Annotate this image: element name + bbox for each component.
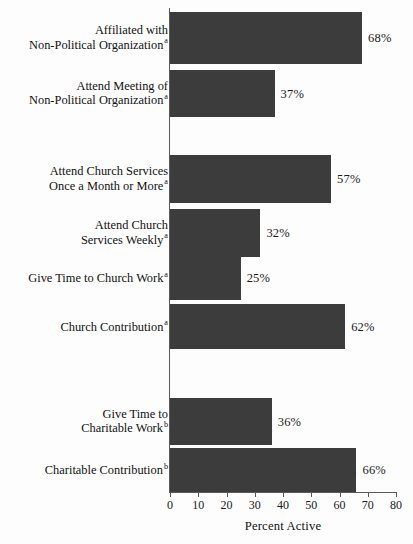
bar-value-label: 62% [351, 319, 375, 334]
plot-area: Affiliated withNon-Political Organizatio… [0, 0, 413, 544]
x-axis-tick-label: 80 [381, 498, 411, 513]
x-axis-title: Percent Active [169, 519, 397, 534]
x-axis-tick-label: 70 [353, 498, 383, 513]
footnote-marker: a [163, 92, 168, 101]
x-axis-tick-label: 0 [155, 498, 185, 513]
x-axis-tick-label: 30 [240, 498, 270, 513]
x-axis-tick [198, 493, 199, 497]
x-axis-tick [396, 493, 397, 497]
bar-chart: Affiliated withNon-Political Organizatio… [0, 0, 413, 544]
footnote-marker: b [163, 462, 168, 471]
bar-value-label: 68% [368, 31, 392, 46]
bar-value-label: 37% [281, 86, 305, 101]
bar [170, 155, 331, 203]
bar-value-label: 57% [337, 172, 361, 187]
bar-row: Charitable Contributionb66% [0, 448, 413, 492]
bar [170, 70, 275, 117]
x-axis-tick-label: 10 [183, 498, 213, 513]
x-axis-tick-label: 40 [268, 498, 298, 513]
bar-category-label: Give Time to Church Worka [0, 271, 168, 286]
bar-value-label: 25% [247, 271, 271, 286]
bar-value-label: 32% [266, 226, 290, 241]
bar-row: Attend Church ServicesOnce a Month or Mo… [0, 155, 413, 203]
bar-row: Attend ChurchServices Weeklya32% [0, 209, 413, 257]
bar-category-label: Attend Church ServicesOnce a Month or Mo… [0, 164, 168, 193]
x-axis-tick-label: 60 [325, 498, 355, 513]
bar [170, 209, 260, 257]
x-axis-tick [170, 493, 171, 497]
x-axis-tick [311, 493, 312, 497]
bar-category-label: Attend ChurchServices Weeklya [0, 218, 168, 247]
x-axis-tick-label: 50 [296, 498, 326, 513]
bar-category-label: Give Time toCharitable Workb [0, 407, 168, 436]
bar [170, 448, 356, 492]
bar-row: Church Contributiona62% [0, 304, 413, 349]
bar-value-label: 36% [278, 414, 302, 429]
x-axis-tick-label: 20 [212, 498, 242, 513]
footnote-marker: a [163, 178, 168, 187]
x-axis-tick [283, 493, 284, 497]
footnote-marker: a [163, 270, 168, 279]
footnote-marker: b [163, 420, 168, 429]
bar-category-label: Charitable Contributionb [0, 463, 168, 478]
bar-category-label: Attend Meeting ofNon-Political Organizat… [0, 79, 168, 108]
bar-row: Affiliated withNon-Political Organizatio… [0, 12, 413, 64]
bar [170, 256, 241, 300]
footnote-marker: a [163, 232, 168, 241]
x-axis-tick [340, 493, 341, 497]
x-axis-tick [227, 493, 228, 497]
bar [170, 12, 362, 64]
x-axis-tick [368, 493, 369, 497]
footnote-marker: a [163, 37, 168, 46]
bar-category-label: Affiliated withNon-Political Organizatio… [0, 23, 168, 52]
bar [170, 304, 345, 349]
bar-category-label: Church Contributiona [0, 319, 168, 334]
bar [170, 398, 272, 445]
x-axis-tick [255, 493, 256, 497]
bar-row: Give Time toCharitable Workb36% [0, 398, 413, 445]
bar-row: Attend Meeting ofNon-Political Organizat… [0, 70, 413, 117]
bar-value-label: 66% [362, 463, 386, 478]
bar-row: Give Time to Church Worka25% [0, 256, 413, 300]
footnote-marker: a [163, 318, 168, 327]
